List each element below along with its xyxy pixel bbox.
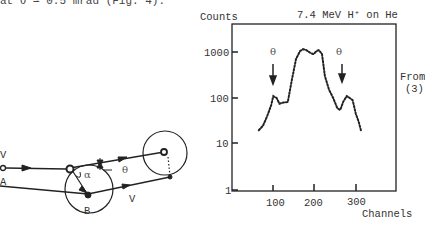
label-point-a: A [0,176,7,188]
figure: V A B V α θ θ θ Counts 7.4 MeV H⁺ on He [0,0,425,226]
x-tick-100: 100 [266,197,285,209]
label-v-out: V [129,193,136,205]
spectrum-curve [259,49,361,130]
spectrum-chart [232,24,396,191]
y-tick-100: 100 [210,93,229,105]
x-tick-300: 300 [347,196,366,208]
y-axis-label: Counts [200,11,238,23]
arrowhead-icon [122,184,130,189]
plot-frame [232,24,396,191]
credit-from: From [400,71,425,83]
point-b-marker [85,192,91,198]
arrowhead-icon [79,186,87,193]
theta-annotation-left: θ [270,46,276,57]
label-theta: θ [122,164,128,175]
label-alpha: α [84,169,91,180]
theta-annotation-right: θ [336,46,342,57]
x-axis-label: Channels [362,208,412,220]
label-point-b: B [84,205,90,217]
chart-title: 7.4 MeV H⁺ on He [297,9,398,21]
y-tick-1: 1 [225,185,231,197]
upper-point-marker [161,149,167,155]
label-v-in: V [0,149,7,161]
arrowhead-icon [118,157,127,162]
point-a-marker [1,166,6,171]
lower-trajectory [0,186,88,194]
credit-ref: (3) [405,83,424,95]
y-tick-1000: 1000 [204,47,229,59]
collision-diagram [0,131,187,213]
incoming-trajectory [6,168,66,169]
x-tick-200: 200 [304,197,323,209]
y-tick-10: 10 [216,138,229,150]
impact-point-marker [67,166,74,173]
arrowhead-icon [22,165,31,171]
